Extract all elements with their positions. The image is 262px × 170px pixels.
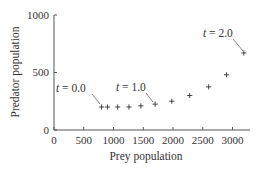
svg-text:t = 1.0: t = 1.0 bbox=[116, 81, 146, 93]
scatter-chart: 0 500 1000 0 500 1000 1500 2000 2500 300… bbox=[0, 0, 262, 170]
plus-marker bbox=[138, 103, 143, 108]
data-markers bbox=[99, 50, 246, 109]
annotation-t1: t = 1.0 bbox=[116, 81, 153, 102]
plus-marker bbox=[169, 99, 174, 104]
annotation-t2: t = 2.0 bbox=[203, 27, 243, 51]
x-tick-label-0: 0 bbox=[51, 134, 57, 146]
x-axis-label: Prey population bbox=[109, 150, 182, 163]
plus-marker bbox=[241, 50, 246, 55]
plus-marker bbox=[153, 102, 158, 107]
x-tick-label-2000: 2000 bbox=[162, 134, 185, 146]
plus-marker bbox=[105, 104, 110, 109]
annotation-t0: t = 0.0 bbox=[56, 82, 100, 104]
svg-text:t = 0.0: t = 0.0 bbox=[56, 82, 86, 94]
annotation-leader-t0 bbox=[92, 94, 100, 104]
plus-marker bbox=[224, 72, 229, 77]
x-tick-label-1000: 1000 bbox=[103, 134, 126, 146]
x-tick-label-2500: 2500 bbox=[192, 134, 215, 146]
y-ticks: 0 500 1000 bbox=[27, 9, 57, 136]
y-tick-label-1000: 1000 bbox=[27, 9, 50, 21]
plus-marker bbox=[126, 104, 131, 109]
svg-text:t = 2.0: t = 2.0 bbox=[203, 27, 233, 39]
y-axis-label: Predator population bbox=[9, 26, 22, 117]
annotation-leader-t2 bbox=[233, 39, 243, 51]
plus-marker bbox=[115, 104, 120, 109]
x-tick-label-500: 500 bbox=[76, 134, 93, 146]
plus-marker bbox=[187, 93, 192, 98]
annotation-leader-t1 bbox=[146, 93, 153, 102]
x-tick-label-3000: 3000 bbox=[222, 134, 245, 146]
plus-marker bbox=[206, 84, 211, 89]
x-tick-label-1500: 1500 bbox=[132, 134, 155, 146]
plus-marker bbox=[99, 104, 104, 109]
y-tick-label-0: 0 bbox=[44, 124, 50, 136]
y-tick-label-500: 500 bbox=[33, 66, 50, 78]
